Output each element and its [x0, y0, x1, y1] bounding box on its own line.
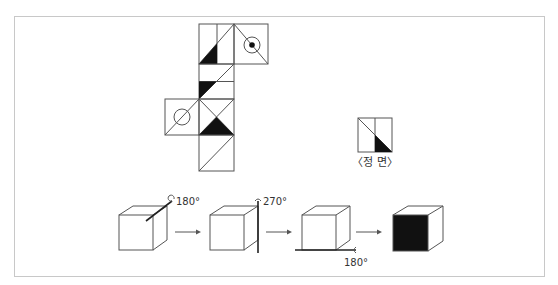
- arrow-right-icon: [175, 230, 201, 235]
- diagram-canvas: 〈정 면〉 180° 270° 180°: [0, 0, 558, 285]
- rotation-arrow-icon: [168, 195, 174, 201]
- front-view-label: 〈정 면〉: [352, 156, 398, 169]
- cube-step-2: [210, 199, 261, 253]
- cube-step-4-result: [393, 206, 443, 251]
- net-face-top-right: [234, 24, 268, 64]
- net-face-left: [165, 99, 199, 135]
- cube-step-3: [295, 206, 356, 253]
- front-view: [358, 118, 392, 152]
- net-face-center: [199, 99, 234, 135]
- cube-net: [165, 24, 268, 171]
- cube-step-1: [119, 195, 174, 250]
- rotation-angle-3: 180°: [344, 257, 368, 268]
- arrow-right-icon: [266, 230, 292, 235]
- net-face-bottom: [199, 135, 234, 171]
- rotation-axis-diagonal: [146, 201, 172, 221]
- step-arrows: [175, 230, 382, 235]
- arrow-right-icon: [356, 230, 382, 235]
- rotation-angle-1: 180°: [176, 196, 200, 207]
- rotation-angle-2: 270°: [263, 196, 287, 207]
- rotation-arrow-icon: [255, 199, 261, 201]
- net-face-second: [199, 64, 234, 99]
- net-face-top-left: [199, 24, 234, 64]
